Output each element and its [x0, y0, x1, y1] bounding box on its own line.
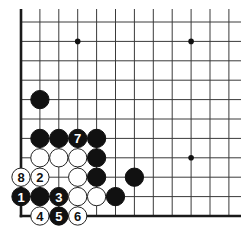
black-stone	[87, 149, 105, 167]
star-point-icon	[75, 39, 81, 45]
move-number-label: 8	[17, 170, 24, 185]
white-stone-icon	[50, 149, 68, 167]
move-number-label: 7	[74, 131, 81, 146]
black-stone	[106, 187, 124, 205]
black-stone-icon	[106, 187, 124, 205]
white-stone: 2	[31, 168, 49, 186]
move-number-label: 4	[36, 209, 44, 224]
white-stone-icon	[69, 149, 87, 167]
black-stone-icon	[31, 90, 49, 108]
black-stone: 3	[50, 187, 68, 205]
white-stone-icon	[31, 149, 49, 167]
white-stone-icon	[87, 187, 105, 205]
white-stone	[69, 149, 87, 167]
black-stone-icon	[50, 129, 68, 147]
black-stone	[125, 168, 143, 186]
black-stone-icon	[125, 168, 143, 186]
move-number-label: 6	[74, 209, 81, 224]
black-stone: 7	[69, 129, 87, 147]
go-board-diagram: 78213456	[0, 0, 247, 234]
white-stone	[87, 187, 105, 205]
black-stone-icon	[87, 129, 105, 147]
move-number-label: 5	[55, 209, 62, 224]
black-stone-icon	[87, 168, 105, 186]
white-stone-icon	[69, 187, 87, 205]
black-stone	[31, 187, 49, 205]
board-edges	[20, 9, 241, 217]
black-stone	[87, 129, 105, 147]
black-stone: 1	[12, 187, 30, 205]
white-stone	[31, 149, 49, 167]
white-stone: 4	[31, 207, 49, 225]
white-stone: 6	[69, 207, 87, 225]
black-stone	[50, 129, 68, 147]
black-stone	[31, 90, 49, 108]
black-stone	[87, 168, 105, 186]
move-number-label: 2	[36, 170, 43, 185]
star-point-icon	[188, 39, 194, 45]
white-stone-icon	[69, 168, 87, 186]
move-number-label: 3	[55, 190, 62, 205]
black-stone: 5	[50, 207, 68, 225]
move-number-label: 1	[17, 190, 24, 205]
black-stone	[31, 129, 49, 147]
white-stone	[69, 187, 87, 205]
black-stone-icon	[87, 149, 105, 167]
star-point-icon	[188, 155, 194, 161]
white-stone	[69, 168, 87, 186]
black-stone-icon	[31, 187, 49, 205]
white-stone	[50, 149, 68, 167]
black-stone-icon	[31, 129, 49, 147]
white-stone: 8	[12, 168, 30, 186]
